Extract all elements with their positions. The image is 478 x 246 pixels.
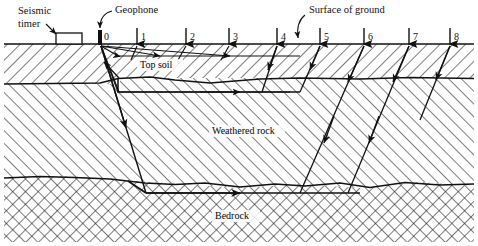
geophone-number-6: 6: [368, 31, 373, 42]
layer-label-topsoil-top: Top soil: [140, 59, 173, 70]
geophone-number-0: 0: [104, 31, 109, 42]
surface-of-ground-leader: [298, 15, 305, 38]
geophone-arrows: [137, 28, 450, 44]
figure-canvas: Seismic timer Geophone Surface of ground…: [0, 0, 478, 246]
geophone-leader: [100, 11, 112, 28]
seismic-survey-diagram: Seismic timer Geophone Surface of ground…: [0, 0, 478, 246]
geophone-numbers: 0 1 2 3 4 5 6 7 8: [104, 31, 459, 42]
layer-label-weathered-rock-top: Weathered rock: [212, 125, 275, 136]
geophone-number-4: 4: [281, 31, 286, 42]
geophone-number-1: 1: [141, 31, 146, 42]
layer-label-bedrock-top: Bedrock: [215, 210, 249, 221]
seismic-timer-box: [56, 33, 82, 44]
geophone-number-3: 3: [233, 31, 238, 42]
geophone-number-7: 7: [413, 31, 418, 42]
seismic-timer-label-line1: Seismic: [18, 5, 52, 16]
surface-of-ground-label: Surface of ground: [309, 4, 386, 15]
geophone-number-8: 8: [454, 31, 459, 42]
geophone-0-marker: [98, 30, 102, 45]
seismic-timer-label-line2: timer: [18, 18, 41, 29]
geophone-number-5: 5: [324, 31, 329, 42]
geophone-label: Geophone: [115, 4, 158, 15]
geophone-number-2: 2: [190, 31, 195, 42]
seismic-timer-leader: [46, 24, 56, 34]
